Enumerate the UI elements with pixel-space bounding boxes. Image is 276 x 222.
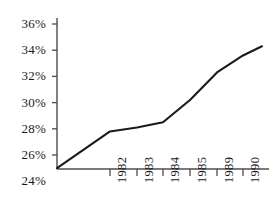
x-axis-tick-label: 1982 xyxy=(116,157,129,183)
x-axis-tick-label: 1983 xyxy=(143,157,156,183)
line-chart: 26%28%30%32%34%36%24% 198219831984198519… xyxy=(0,0,276,222)
x-axis-tick-label: 1989 xyxy=(223,157,236,183)
x-axis-tick-label: 1985 xyxy=(196,157,209,183)
x-axis-tick-label: 1984 xyxy=(169,157,182,183)
x-axis-tick-label: 1990 xyxy=(249,157,262,183)
x-axis-label-group: 198219831984198519891990 xyxy=(0,0,276,222)
